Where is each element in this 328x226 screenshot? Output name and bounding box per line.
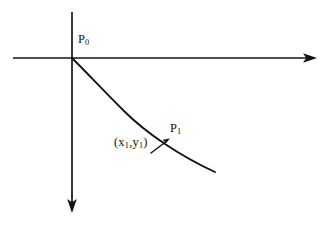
point-p0-label: P0 <box>78 33 89 46</box>
point-p1-subscript: 1 <box>177 127 181 136</box>
coordinate-pair-label: (x1,y1) <box>114 136 148 149</box>
point-p1-letter: P <box>170 121 177 135</box>
coordinate-close-paren: ) <box>143 135 147 149</box>
coordinate-comma-y: ,y <box>129 135 139 149</box>
descent-curve <box>72 58 215 172</box>
diagram-svg <box>0 0 328 226</box>
coordinate-leader-line <box>151 141 168 154</box>
point-p1-label: P1 <box>170 122 181 135</box>
coordinate-open-paren-x: (x <box>114 135 125 149</box>
point-p0-subscript: 0 <box>85 38 89 47</box>
coordinate-x-subscript: 1 <box>125 141 129 150</box>
coordinate-y-subscript: 1 <box>139 141 143 150</box>
figure-canvas: P0 P1 (x1,y1) <box>0 0 328 226</box>
point-p0-letter: P <box>78 32 85 46</box>
